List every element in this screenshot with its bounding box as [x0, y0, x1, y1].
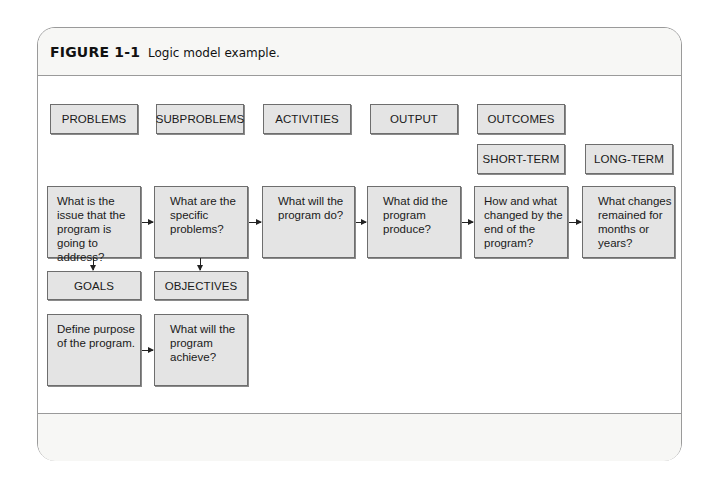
arrow-down-icon — [200, 258, 201, 270]
label-outcomes: OUTCOMES — [477, 104, 565, 134]
label-subproblems: SUBPROBLEMS — [156, 104, 244, 134]
label-output: OUTPUT — [370, 104, 458, 134]
figure-number: FIGURE 1-1 — [50, 44, 140, 60]
arrow-right-icon — [462, 222, 473, 223]
question-long-term: What changes remained for months or year… — [582, 186, 675, 258]
figure-title: FIGURE 1-1 Logic model example. — [50, 44, 280, 60]
question-objectives: What will the program achieve? — [154, 314, 248, 386]
label-goals: GOALS — [47, 271, 141, 300]
question-activities: What will the program do? — [262, 186, 355, 258]
label-short-term: SHORT-TERM — [477, 144, 565, 174]
question-subproblems: What are the specific problems? — [154, 186, 248, 258]
arrow-right-icon — [142, 350, 153, 351]
question-output: What did the program produce? — [367, 186, 461, 258]
label-long-term: LONG-TERM — [585, 144, 673, 174]
arrow-down-icon — [93, 258, 94, 270]
arrow-right-icon — [356, 222, 366, 223]
question-goals: Define purpose of the program. — [47, 314, 141, 386]
arrow-right-icon — [142, 222, 153, 223]
question-short-term: How and what changed by the end of the p… — [474, 186, 568, 258]
label-activities: ACTIVITIES — [263, 104, 351, 134]
label-problems: PROBLEMS — [50, 104, 138, 134]
figure-footer — [38, 413, 681, 461]
arrow-right-icon — [249, 222, 261, 223]
figure-caption: Logic model example. — [148, 46, 280, 60]
arrow-right-icon — [569, 222, 581, 223]
question-problems: What is the issue that the program is go… — [47, 186, 141, 258]
label-objectives: OBJECTIVES — [154, 271, 248, 300]
